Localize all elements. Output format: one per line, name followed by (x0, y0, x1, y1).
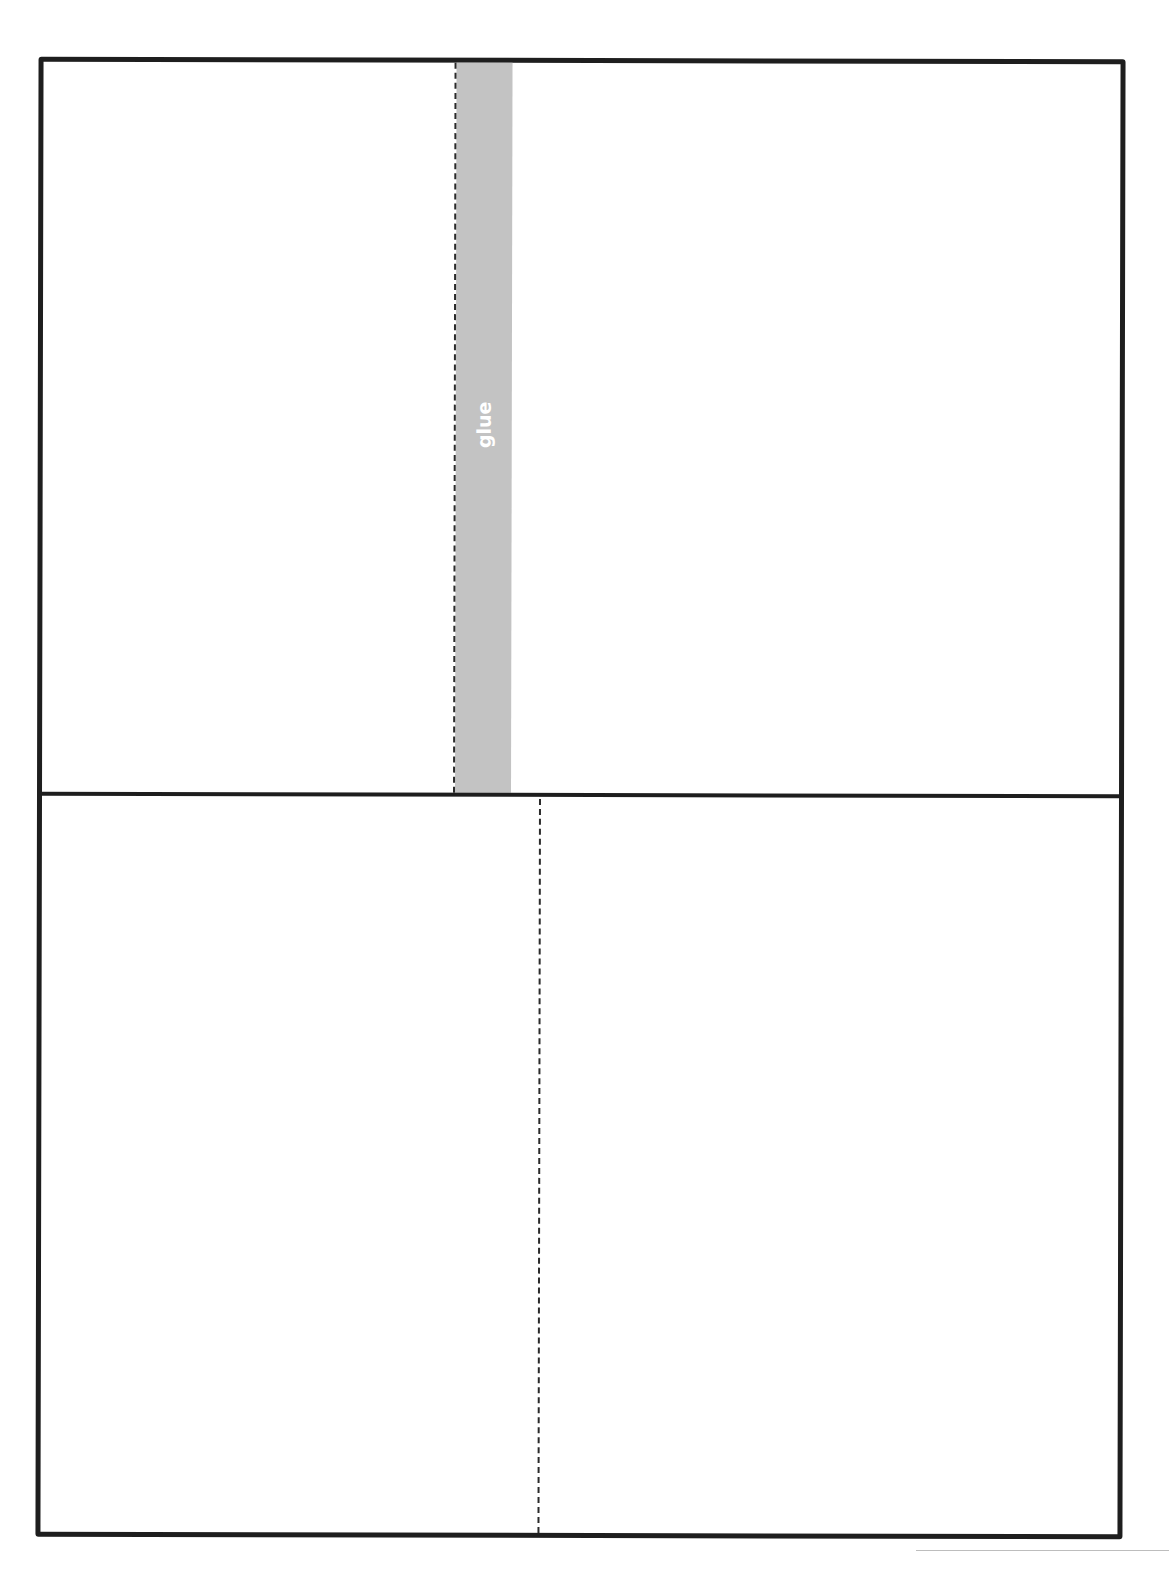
glue-strip: glue (455, 63, 513, 793)
panel-top-right (511, 63, 1121, 794)
panel-bottom-left (40, 796, 539, 1533)
template-outer-border: glue (35, 57, 1125, 1539)
footer-rule (916, 1550, 1169, 1551)
panel-bottom-right (539, 797, 1119, 1534)
worksheet-page: glue (0, 0, 1169, 1584)
panel-top-left (42, 62, 455, 793)
glue-label: glue (473, 402, 495, 449)
